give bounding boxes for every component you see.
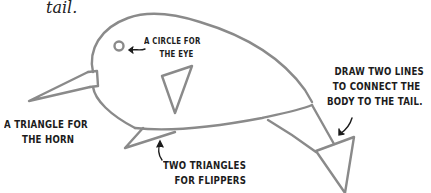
tail-lines-label-line1: Draw two lines <box>327 64 424 79</box>
tail-lines-label-line2: to connect the <box>327 79 424 94</box>
tail-lines-label: Draw two lines to connect the body to th… <box>327 64 424 109</box>
tail-lines-label-line3: body to the tail. <box>327 94 424 109</box>
horn-label-line2: the horn <box>4 132 88 147</box>
flippers-label-line2: for flippers <box>163 173 246 188</box>
tail-triangle <box>316 137 354 193</box>
narwhal-drawing-diagram: tail. A circle for the eye A triangle fo… <box>0 0 431 193</box>
horn-triangle <box>29 72 90 101</box>
eye-label: A circle for the eye <box>144 35 201 61</box>
eye-label-line2: the eye <box>144 48 201 61</box>
flippers-label-line1: Two triangles <box>163 158 246 173</box>
caption-text: tail. <box>46 0 77 17</box>
tail-connect-line-bottom <box>268 120 316 152</box>
horn-base <box>88 71 98 87</box>
body-belly <box>93 87 135 128</box>
flipper-triangle <box>125 128 175 148</box>
dorsal-triangle <box>162 66 192 113</box>
belly-line <box>135 105 312 129</box>
tail-arrow <box>340 118 352 134</box>
flippers-label: Two triangles for flippers <box>163 158 246 188</box>
eye-circle <box>115 42 124 51</box>
horn-label-line1: A triangle for <box>4 117 88 132</box>
horn-label: A triangle for the horn <box>4 117 88 147</box>
tail-connect-line-top <box>312 105 334 144</box>
body-outline <box>92 14 312 102</box>
eye-label-line1: A circle for <box>144 35 201 48</box>
